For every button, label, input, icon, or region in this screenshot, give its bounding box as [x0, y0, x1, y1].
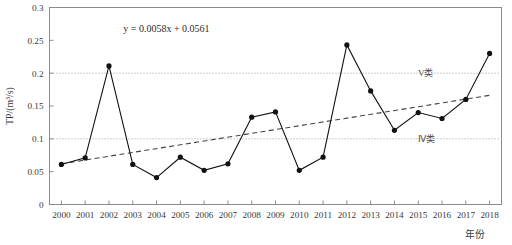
x-tick-label: 2013 [361, 210, 380, 220]
y-tick-label: 0 [39, 200, 44, 210]
data-point [59, 162, 64, 167]
data-point [344, 42, 349, 47]
x-tick-label: 2004 [147, 210, 166, 220]
data-point [106, 63, 111, 68]
y-tick-label: 0.25 [27, 36, 43, 46]
y-tick-label: 0.05 [27, 167, 43, 177]
x-tick-label: 2014 [385, 210, 404, 220]
x-tick-label: 2011 [314, 210, 332, 220]
data-point [154, 175, 159, 180]
x-tick-label: 2005 [171, 210, 190, 220]
data-point [249, 115, 254, 120]
x-tick-label: 2017 [457, 210, 476, 220]
x-tick-label: 2012 [338, 210, 357, 220]
y-axis-title: TP/(m³/s) [4, 87, 16, 125]
x-tick-label: 2000 [52, 210, 71, 220]
x-tick-label: 2010 [290, 210, 309, 220]
reference-line-label: V类 [418, 67, 434, 78]
y-tick-label: 0.15 [27, 101, 43, 111]
x-tick-label: 2018 [480, 210, 499, 220]
data-point [83, 155, 88, 160]
x-tick-label: 2002 [100, 210, 119, 220]
data-point [202, 168, 207, 173]
x-tick-label: 2007 [219, 210, 238, 220]
regression-equation-label: y = 0.0058x + 0.0561 [123, 23, 209, 34]
x-tick-label: 2003 [124, 210, 143, 220]
data-point [392, 128, 397, 133]
x-axis-title: 年份 [465, 228, 485, 240]
reference-line-label: Ⅳ类 [418, 133, 435, 144]
x-tick-label: 2015 [409, 210, 428, 220]
x-tick-label: 2016 [433, 210, 452, 220]
y-tick-label: 0.1 [32, 134, 44, 144]
data-point [225, 161, 230, 166]
y-tick-label: 0.3 [32, 3, 44, 13]
data-point [297, 168, 302, 173]
x-tick-label: 2006 [195, 210, 214, 220]
chart-background [0, 0, 512, 245]
data-point [463, 97, 468, 102]
chart-figure: 00.050.10.150.20.250.3 20002001200220032… [0, 0, 512, 245]
x-tick-label: 2001 [76, 210, 95, 220]
data-point [368, 88, 373, 93]
data-point [320, 155, 325, 160]
data-point [273, 109, 278, 114]
tp-time-series-chart: 00.050.10.150.20.250.3 20002001200220032… [0, 0, 512, 245]
y-tick-label: 0.2 [32, 69, 44, 79]
x-tick-label: 2008 [243, 210, 262, 220]
data-point [487, 51, 492, 56]
data-point [416, 110, 421, 115]
x-tick-label: 2009 [266, 210, 285, 220]
data-point [439, 116, 444, 121]
data-point [178, 155, 183, 160]
data-point [130, 162, 135, 167]
